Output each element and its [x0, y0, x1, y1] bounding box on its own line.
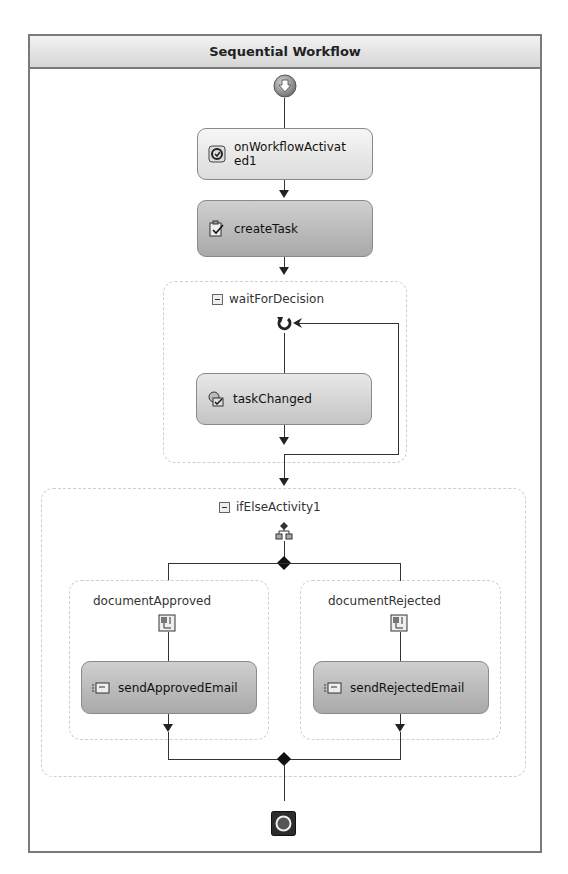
- loop-connector: [398, 323, 399, 454]
- arrow-down-icon: [279, 267, 289, 275]
- activity-label-line1: onWorkflowActivat: [234, 140, 346, 154]
- activity-sendrejectedemail[interactable]: sendRejectedEmail: [313, 661, 489, 714]
- container-label: ifElseActivity1: [236, 500, 321, 514]
- branch-label: documentRejected: [328, 594, 441, 608]
- activity-label-line2: ed1: [234, 154, 346, 168]
- container-label: waitForDecision: [229, 292, 324, 306]
- connector: [168, 732, 169, 759]
- activity-createtask[interactable]: createTask: [197, 200, 373, 257]
- connector: [168, 563, 400, 564]
- container-waitfordecision[interactable]: [163, 281, 407, 463]
- connector: [168, 632, 169, 662]
- collapse-icon[interactable]: [212, 294, 223, 305]
- activity-label: sendApprovedEmail: [118, 681, 238, 695]
- connector: [168, 563, 169, 581]
- arrow-down-icon: [279, 478, 289, 486]
- workflow-title: Sequential Workflow: [30, 36, 540, 69]
- arrow-down-icon: [395, 724, 405, 732]
- sequence-icon: [390, 614, 408, 632]
- loop-connector: [284, 454, 399, 455]
- activity-label: createTask: [234, 222, 298, 236]
- activity-label: sendRejectedEmail: [350, 681, 464, 695]
- activity-onworkflowactivated[interactable]: onWorkflowActivat ed1: [197, 128, 373, 180]
- container-title-waitfordecision: waitForDecision: [212, 292, 324, 306]
- connector: [284, 454, 285, 480]
- connector: [400, 732, 401, 759]
- end-stop-icon[interactable]: [271, 811, 296, 836]
- create-task-icon: [208, 220, 226, 238]
- sequence-icon: [158, 614, 176, 632]
- connector: [284, 764, 285, 801]
- connector: [400, 563, 401, 581]
- activity-sendapprovedemail[interactable]: sendApprovedEmail: [81, 661, 257, 714]
- email-icon: [92, 679, 110, 697]
- activity-taskchanged[interactable]: taskChanged: [196, 373, 372, 425]
- arrow-down-icon: [279, 437, 289, 445]
- arrow-down-icon: [163, 724, 173, 732]
- arrow-left-icon: [293, 318, 303, 328]
- arrow-down-icon: [279, 190, 289, 198]
- container-title-ifelse: ifElseActivity1: [219, 500, 321, 514]
- activity-label: taskChanged: [233, 392, 312, 406]
- branch-label: documentApproved: [93, 594, 211, 608]
- workflow-activated-icon: [208, 145, 226, 163]
- task-changed-icon: [207, 390, 225, 408]
- start-arrow-icon[interactable]: [273, 74, 297, 98]
- loop-connector: [298, 323, 398, 324]
- while-loop-icon: [276, 315, 292, 331]
- email-icon: [324, 679, 342, 697]
- connector: [284, 333, 285, 373]
- connector: [284, 98, 285, 128]
- connector: [400, 632, 401, 662]
- ifelse-branch-icon: [274, 521, 294, 541]
- collapse-icon[interactable]: [219, 502, 230, 513]
